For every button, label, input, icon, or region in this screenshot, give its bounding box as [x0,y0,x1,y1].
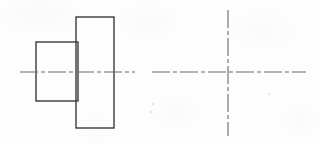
front-view [20,17,135,128]
drawing-canvas [0,0,320,144]
drawing-sheet [0,0,320,144]
end-view [152,10,306,136]
